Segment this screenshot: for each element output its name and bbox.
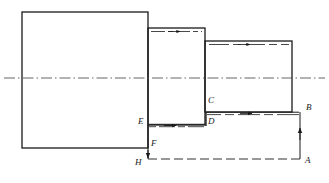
tool-path (148, 112, 300, 159)
point-label-H: H (135, 158, 142, 167)
point-label-C: C (208, 96, 214, 105)
cut-indication-lines (151, 32, 289, 45)
stage-1-blank-rect (22, 12, 148, 148)
point-label-F: F (151, 139, 157, 148)
point-label-D: D (208, 117, 215, 126)
point-label-A: A (305, 156, 311, 165)
technical-drawing-svg (0, 0, 329, 183)
drawing-canvas: A B C D E F H (0, 0, 329, 183)
point-label-E: E (138, 117, 144, 126)
stage-3-step-rect (205, 41, 292, 112)
point-label-B: B (306, 103, 312, 112)
stage-2-step-rect (148, 28, 205, 125)
shaft-outlines (22, 12, 292, 148)
